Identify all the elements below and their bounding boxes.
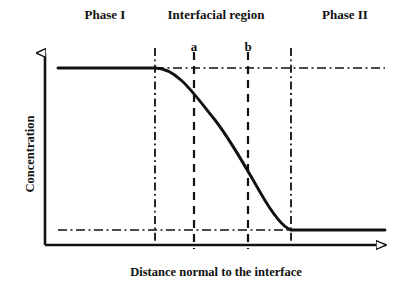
region-label-interfacial-region: Interfacial region bbox=[168, 8, 265, 21]
region-label-phase-i: Phase I bbox=[85, 8, 126, 21]
diagram-canvas bbox=[0, 0, 417, 287]
marker-label-b: b bbox=[244, 40, 251, 53]
y-axis-title: Concentration bbox=[24, 115, 37, 192]
marker-label-a: a bbox=[191, 40, 198, 53]
x-axis-title: Distance normal to the interface bbox=[130, 266, 301, 279]
concentration-profile-curve bbox=[58, 68, 385, 230]
region-label-phase-ii: Phase II bbox=[322, 8, 368, 21]
concentration-profile-figure: Phase I Interfacial region Phase II a b … bbox=[0, 0, 417, 287]
